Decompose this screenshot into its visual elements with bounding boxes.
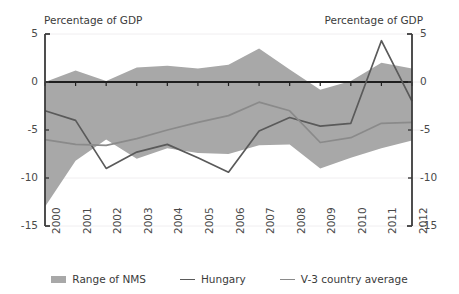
- left-axis-tick-label: 0: [8, 75, 38, 87]
- x-axis-tick-label-2005: 2005: [203, 207, 215, 234]
- legend-swatch-line-light-icon: [280, 279, 295, 280]
- left-axis-tick-label: -10: [8, 171, 38, 183]
- right-axis-tick-label: -10: [420, 171, 454, 183]
- left-axis-tick-label: 5: [8, 27, 38, 39]
- x-axis-tick-label-2000: 2000: [50, 207, 62, 234]
- left-axis-tick-label: -15: [8, 219, 38, 231]
- series-band-range-of-nms: [45, 48, 412, 206]
- legend-item-label: V-3 country average: [301, 273, 408, 285]
- legend-item-label: Hungary: [201, 273, 246, 285]
- x-axis-tick-label-2011: 2011: [386, 207, 398, 234]
- right-axis-tick-label: 5: [420, 27, 454, 39]
- legend-item-hungary[interactable]: Hungary: [180, 273, 246, 285]
- x-axis-tick-label-2004: 2004: [172, 207, 184, 234]
- x-axis-tick-label-2001: 2001: [81, 207, 93, 234]
- legend-swatch-line-dark-icon: [180, 279, 195, 280]
- x-axis-tick-label-2009: 2009: [325, 207, 337, 234]
- plot-area: [0, 0, 459, 294]
- x-axis-tick-label-2007: 2007: [264, 207, 276, 234]
- right-axis-tick-label: -5: [420, 123, 454, 135]
- x-axis-tick-label-2003: 2003: [142, 207, 154, 234]
- x-axis-tick-label-2012: 2012: [417, 207, 429, 234]
- right-axis-tick-label: 0: [420, 75, 454, 87]
- x-axis-tick-label-2002: 2002: [111, 207, 123, 234]
- legend-swatch-band-icon: [51, 276, 66, 283]
- x-axis-tick-label-2010: 2010: [356, 207, 368, 234]
- x-axis-tick-label-2008: 2008: [295, 207, 307, 234]
- left-axis-tick-label: -5: [8, 123, 38, 135]
- chart-container: Percentage of GDP Percentage of GDP 50-5…: [0, 0, 459, 294]
- x-axis-tick-label-2006: 2006: [234, 207, 246, 234]
- legend-item-range-of-nms[interactable]: Range of NMS: [51, 273, 146, 285]
- legend-item-v-3-country-average[interactable]: V-3 country average: [280, 273, 408, 285]
- legend-item-label: Range of NMS: [72, 273, 146, 285]
- chart-legend: Range of NMSHungaryV-3 country average: [0, 268, 459, 290]
